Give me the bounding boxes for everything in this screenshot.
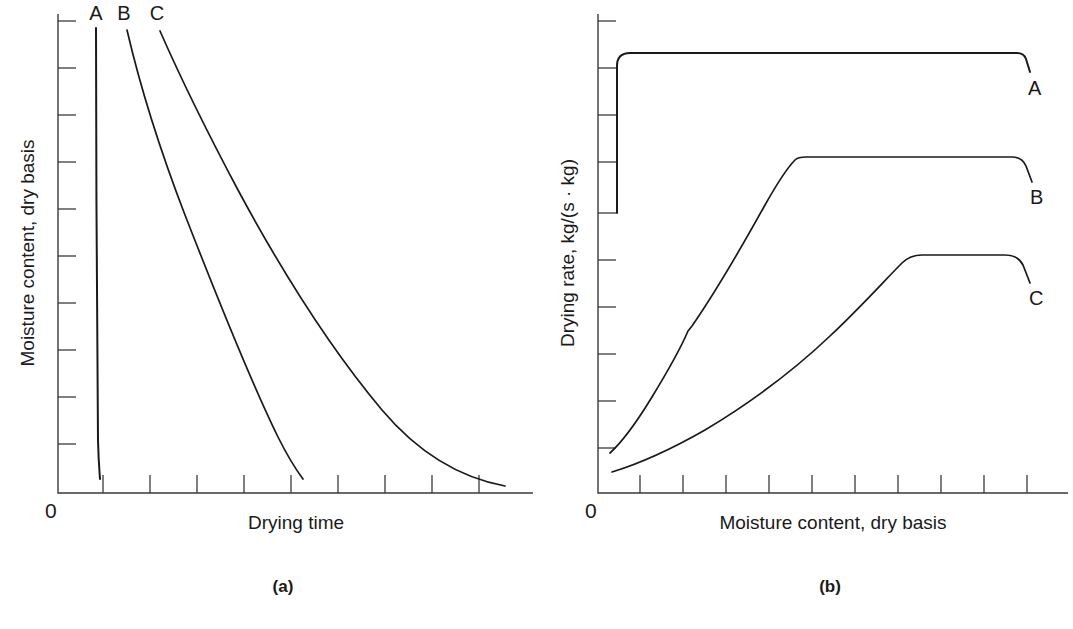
panel-a-y-ticks [58, 21, 76, 444]
panel-a-axes [58, 14, 533, 493]
panel-b-y-axis-title: Drying rate, kg/(s · kg) [557, 159, 578, 347]
panel-a-curve-a [96, 28, 100, 479]
panel-b-axes [598, 14, 1068, 493]
panel-a-x-axis-title: Drying time [248, 512, 344, 533]
panel-a-curve-b [127, 30, 303, 479]
panel-b-curve-c [612, 255, 1030, 472]
panel-b-x-axis-title: Moisture content, dry basis [719, 512, 946, 533]
panel-a-svg: A B C 0 Drying time Moisture content, dr… [0, 0, 540, 629]
panel-b-curve-a [617, 53, 1030, 213]
panel-b-svg: A B C 0 Moisture content, dry basis Dryi… [540, 0, 1073, 629]
panel-a-origin-label: 0 [45, 499, 57, 522]
panel-b-origin-label: 0 [585, 499, 597, 522]
panel-a-y-axis-title: Moisture content, dry basis [17, 139, 38, 366]
panel-a-moisture-vs-time: A B C 0 Drying time Moisture content, dr… [0, 0, 540, 629]
panel-b-x-ticks [640, 475, 1027, 493]
panel-a-curve-label-c: C [150, 2, 164, 24]
panel-b-curve-label-b: B [1030, 186, 1043, 208]
panel-a-curve-c [160, 31, 505, 486]
panel-b-curve-label-c: C [1029, 287, 1043, 309]
panel-a-curve-label-a: A [89, 2, 103, 24]
panel-a-caption: (a) [273, 577, 294, 596]
panel-a-curve-label-b: B [117, 2, 130, 24]
panel-b-caption: (b) [819, 577, 841, 596]
panel-b-curve-b [610, 157, 1032, 453]
panel-b-rate-vs-moisture: A B C 0 Moisture content, dry basis Dryi… [540, 0, 1073, 629]
panel-b-curve-label-a: A [1028, 77, 1042, 99]
panel-a-x-ticks [103, 475, 479, 493]
figure-container: A B C 0 Drying time Moisture content, dr… [0, 0, 1073, 629]
panel-b-y-ticks [598, 21, 616, 448]
